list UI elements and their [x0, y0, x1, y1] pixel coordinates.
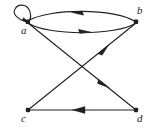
graph-figure: a b c d	[0, 0, 161, 130]
edge-layer	[14, 5, 136, 113]
edge-d-to-c	[28, 107, 136, 114]
vertex-label-c: c	[21, 113, 26, 124]
edge-b-to-a	[28, 11, 136, 22]
vertex-label-b: b	[137, 5, 143, 16]
vertex-label-d: d	[137, 113, 143, 124]
loop-path	[14, 5, 30, 22]
vertex-marker-c	[26, 108, 30, 112]
arrowhead-down-right-icon	[97, 79, 109, 88]
arrowhead-left-bottom-icon	[73, 107, 86, 114]
vertex-marker-b	[134, 20, 138, 24]
edge-a-to-b	[28, 23, 136, 33]
vertex-label-a: a	[21, 25, 27, 36]
graph-canvas	[0, 0, 161, 130]
arrowhead-up-right-icon	[98, 45, 109, 55]
